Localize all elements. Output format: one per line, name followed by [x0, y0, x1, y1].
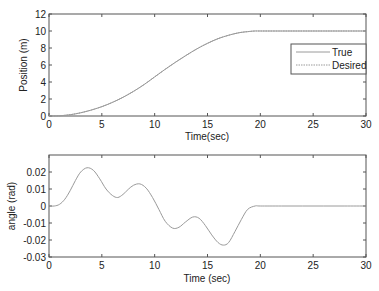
x-tick-label: 20	[255, 119, 267, 130]
y-tick-label: 0.01	[27, 184, 47, 195]
x-tick-label: 25	[308, 260, 320, 271]
x-tick-label: 5	[99, 260, 105, 271]
x-tick-label: 15	[202, 119, 214, 130]
y-tick-label: -0.02	[23, 235, 46, 246]
position-plot: 051015202530 024681012 Time(sec) Positio…	[18, 9, 372, 143]
angle-plot: 051015202530 -0.03-0.02-0.0100.010.02 Ti…	[6, 155, 372, 284]
y-tick-label: 0	[40, 111, 46, 122]
y-tick-label: 0	[40, 201, 46, 212]
x-tick-label: 20	[255, 260, 267, 271]
x-axis-label: Time (sec)	[184, 273, 231, 284]
y-tick-label: 6	[40, 60, 46, 71]
x-tick-label: 25	[308, 119, 320, 130]
x-tick-label: 10	[149, 260, 161, 271]
y-tick-label: 10	[35, 26, 47, 37]
figure: 051015202530 024681012 Time(sec) Positio…	[0, 0, 379, 291]
y-tick-label: -0.03	[23, 252, 46, 263]
x-tick-label: 30	[360, 119, 372, 130]
x-tick-label: 5	[99, 119, 105, 130]
y-tick-label: 2	[40, 94, 46, 105]
x-axis-label: Time(sec)	[185, 131, 229, 142]
y-tick-label: 0.02	[27, 167, 47, 178]
y-axis-label: Position (m)	[18, 38, 29, 91]
x-tick-label: 30	[360, 260, 372, 271]
x-tick-label: 10	[149, 119, 161, 130]
y-tick-label: 12	[35, 9, 47, 20]
legend-true-label: True	[332, 47, 353, 58]
y-tick-label: -0.01	[23, 218, 46, 229]
x-tick-label: 0	[46, 119, 52, 130]
legend-desired-label: Desired	[332, 60, 366, 71]
legend: True Desired	[291, 44, 366, 74]
y-tick-label: 8	[40, 43, 46, 54]
x-tick-label: 0	[46, 260, 52, 271]
x-tick-label: 15	[202, 260, 214, 271]
y-axis-label: angle (rad)	[6, 182, 17, 230]
y-tick-label: 4	[40, 77, 46, 88]
